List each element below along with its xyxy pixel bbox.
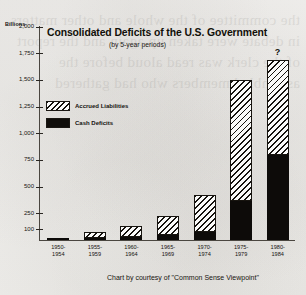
y-tick-mark [36, 229, 43, 230]
y-tick-label: 250 [2, 210, 34, 216]
x-axis-label: 1955- 1959 [77, 244, 114, 258]
y-tick-label: 750 [2, 156, 34, 162]
bar-annotation-question-mark: ? [275, 47, 281, 57]
bar-segment-cash-deficits [84, 238, 106, 241]
bar-segment-accrued-liabilities [157, 216, 179, 235]
bar-segment-cash-deficits [120, 237, 142, 241]
x-axis-label: 1965- 1969 [150, 244, 187, 258]
y-tick-mark [36, 187, 43, 188]
legend-label-cash-deficits: Cash Deficits [75, 120, 113, 126]
y-tick-label: 1,750 [2, 50, 34, 56]
deficits-bar-chart: Billions 2,0001,7501,5001,2501,000750500… [0, 0, 306, 295]
x-axis-label: 1960- 1964 [113, 244, 150, 258]
y-tick-mark [36, 53, 43, 54]
y-tick-label: 100 [2, 226, 34, 232]
y-tick-mark [36, 80, 43, 81]
y-tick-label: 1,000 [2, 130, 34, 136]
chart-title: Consolidated Deficits of the U.S. Govern… [47, 27, 267, 38]
bar-segment-accrued-liabilities [267, 60, 289, 155]
y-tick-label: 2,000 [2, 23, 34, 29]
bar-segment-cash-deficits [267, 155, 289, 240]
bar-segment-cash-deficits [230, 201, 252, 240]
y-tick-mark [36, 27, 43, 28]
y-tick-label: 1,500 [2, 76, 34, 82]
y-tick-label: 1,250 [2, 103, 34, 109]
y-tick-mark [36, 213, 43, 214]
x-axis-label: 1950- 1954 [40, 244, 77, 258]
bar-segment-cash-deficits [194, 232, 216, 240]
y-tick-mark [36, 107, 43, 108]
x-axis-label: 1980- 1984 [259, 244, 296, 258]
legend-label-accrued-liabilities: Accrued Liabilities [75, 103, 128, 109]
x-axis-label: 1975- 1979 [223, 244, 260, 258]
bar-segment-accrued-liabilities [230, 80, 252, 201]
y-tick-mark [36, 160, 43, 161]
y-tick-mark [36, 133, 43, 134]
legend-swatch-accrued-liabilities [46, 101, 70, 111]
bar-segment-cash-deficits [47, 238, 69, 240]
bar-segment-accrued-liabilities [120, 226, 142, 237]
bar-segment-cash-deficits [157, 235, 179, 241]
y-tick-label: 500 [2, 183, 34, 189]
bar-segment-accrued-liabilities [194, 195, 216, 233]
chart-credit: Chart by courtesy of "Common Sense Viewp… [107, 274, 259, 281]
chart-subtitle: (by 5-year periods) [109, 41, 166, 48]
legend-swatch-cash-deficits [46, 118, 70, 128]
x-axis-label: 1970- 1974 [186, 244, 223, 258]
